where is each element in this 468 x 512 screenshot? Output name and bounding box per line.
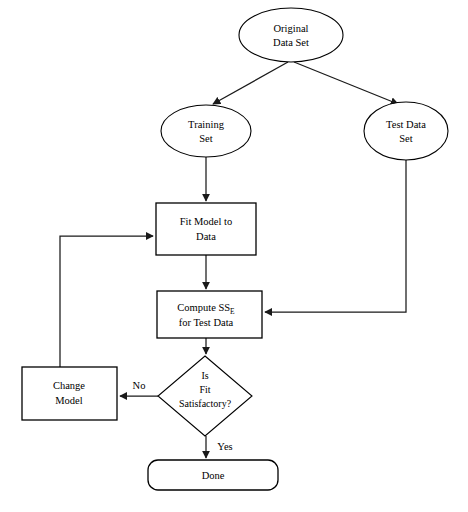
decision-fit-label-line1: Is <box>201 370 208 381</box>
original-data-set-label-line1: Original <box>274 23 309 34</box>
decision-fit-label-line3: Satisfactory? <box>179 398 232 409</box>
original-data-set-ellipse <box>239 8 343 62</box>
node-decision-fit[interactable]: Is Fit Satisfactory? <box>158 356 252 436</box>
compute-sse-label-line2: for Test Data <box>179 317 234 328</box>
compute-sse-main-text: Compute SS <box>177 302 230 313</box>
node-training-set[interactable]: Training Set <box>161 105 251 157</box>
original-data-set-label-line2: Data Set <box>273 37 309 48</box>
decision-fit-label-line2: Fit <box>199 384 210 395</box>
node-fit-model[interactable]: Fit Model to Data <box>156 203 256 255</box>
test-data-set-label-line1: Test Data <box>386 119 426 130</box>
compute-sse-rect <box>157 291 262 338</box>
done-label: Done <box>202 470 225 481</box>
training-set-label-line2: Set <box>199 133 213 144</box>
fit-model-rect <box>156 203 256 255</box>
node-original-data-set[interactable]: Original Data Set <box>239 8 343 62</box>
edge-original-to-training <box>213 62 288 104</box>
compute-sse-subscript: E <box>230 307 235 316</box>
edge-original-to-test <box>294 62 398 104</box>
training-set-ellipse <box>161 105 251 157</box>
change-model-rect <box>22 367 117 420</box>
node-done[interactable]: Done <box>148 460 278 490</box>
edge-label-no: No <box>133 380 146 391</box>
test-data-set-ellipse <box>364 102 448 160</box>
training-set-label-line1: Training <box>188 119 225 130</box>
test-data-set-label-line2: Set <box>399 133 413 144</box>
fit-model-label-line2: Data <box>196 231 216 242</box>
node-change-model[interactable]: Change Model <box>22 367 117 420</box>
edge-test-data-to-compute <box>265 160 406 312</box>
flowchart-svg: Original Data Set Training Set Test Data… <box>0 0 468 512</box>
edge-label-yes: Yes <box>217 441 232 452</box>
node-compute-sse[interactable]: Compute SSE for Test Data <box>157 291 262 338</box>
node-test-data-set[interactable]: Test Data Set <box>364 102 448 160</box>
change-model-label-line2: Model <box>55 395 82 406</box>
flowchart-canvas: Original Data Set Training Set Test Data… <box>0 0 468 512</box>
decision-fit-diamond <box>158 356 252 436</box>
fit-model-label-line1: Fit Model to <box>180 216 233 227</box>
change-model-label-line1: Change <box>53 380 85 391</box>
edge-change-model-to-fit-model <box>60 236 153 367</box>
